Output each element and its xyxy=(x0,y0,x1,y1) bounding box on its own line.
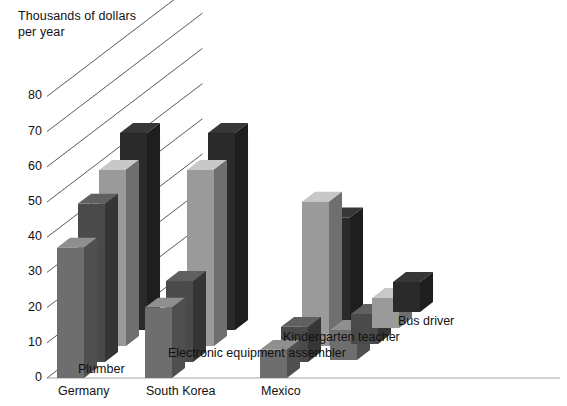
bar-side-face xyxy=(105,194,118,362)
legend-label-1: Electronic equipment assembler xyxy=(168,346,346,360)
chart-container: Thousands of dollars per year 0102030405… xyxy=(0,0,567,406)
bar-1-0 xyxy=(145,298,185,378)
bar-front-face xyxy=(57,248,84,378)
legend-key-3 xyxy=(393,272,433,312)
x-axis-category-label-1: South Korea xyxy=(146,384,216,398)
gridline-80 xyxy=(47,0,202,96)
x-axis-category-label-2: Mexico xyxy=(261,384,301,398)
legend-label-3: Bus driver xyxy=(398,314,454,328)
bar-0-0 xyxy=(57,238,97,378)
bar-front-face xyxy=(145,308,172,378)
gridline-70 xyxy=(47,13,202,131)
bar-side-face xyxy=(235,123,248,330)
legend-key-front xyxy=(393,282,420,312)
bar-side-face xyxy=(172,298,185,378)
legend-label-2: Kindergarten teacher xyxy=(283,330,400,344)
x-axis-category-label-0: Germany xyxy=(58,384,109,398)
legend-label-0: Plumber xyxy=(78,362,125,376)
bar-side-face xyxy=(126,160,139,346)
bar-side-face xyxy=(214,160,227,346)
bar-side-face xyxy=(84,238,97,378)
